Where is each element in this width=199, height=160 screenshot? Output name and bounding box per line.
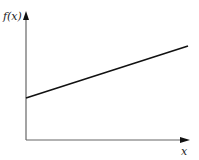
- y-axis-arrow-icon: [23, 11, 29, 20]
- y-axis-label: f(x): [2, 10, 22, 23]
- function-line: [26, 46, 188, 98]
- x-axis-arrow-icon: [180, 137, 190, 143]
- x-axis-label: x: [181, 145, 188, 158]
- graph: f(x) x: [0, 0, 199, 160]
